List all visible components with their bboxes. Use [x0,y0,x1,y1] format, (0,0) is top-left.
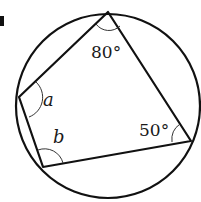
angle-arc-right [172,124,180,142]
angle-label-right: 50° [139,120,169,140]
angle-label-a: a [43,89,54,110]
angle-label-b: b [53,126,65,147]
angle-arc-a [29,82,43,117]
edge-mark [0,16,4,26]
cyclic-quadrilateral-diagram: 80° 50° a b [0,0,201,202]
angle-label-top: 80° [91,42,121,62]
